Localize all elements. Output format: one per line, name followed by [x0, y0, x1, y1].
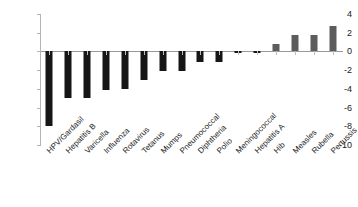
x-tick-mark — [238, 51, 239, 55]
bar[interactable] — [65, 51, 72, 98]
x-tick-mark — [182, 51, 183, 55]
bar[interactable] — [291, 35, 298, 52]
x-tick-mark — [257, 51, 258, 55]
x-tick-mark — [49, 51, 50, 55]
bar[interactable] — [140, 51, 147, 80]
x-tick-mark — [87, 51, 88, 55]
bar-slot[interactable] — [40, 14, 59, 145]
bar[interactable] — [103, 51, 110, 89]
bar[interactable] — [310, 35, 317, 52]
x-tick-mark — [163, 51, 164, 55]
x-tick-mark — [333, 51, 334, 55]
x-tick-mark — [68, 51, 69, 55]
bar[interactable] — [121, 51, 128, 88]
x-tick-mark — [276, 51, 277, 55]
bar[interactable] — [84, 51, 91, 98]
bar-slot[interactable] — [153, 14, 172, 145]
bar-slot[interactable] — [285, 14, 304, 145]
bar[interactable] — [329, 26, 336, 51]
x-tick-mark — [106, 51, 107, 55]
bar-slot[interactable] — [97, 14, 116, 145]
bar-slot[interactable] — [172, 14, 191, 145]
x-tick-mark — [144, 51, 145, 55]
plot-area — [40, 14, 342, 145]
bar-slot[interactable] — [323, 14, 342, 145]
x-tick-mark — [295, 51, 296, 55]
bar-slot[interactable] — [304, 14, 323, 145]
bar[interactable] — [46, 51, 53, 126]
bar[interactable] — [272, 44, 279, 51]
x-tick-mark — [125, 51, 126, 55]
x-tick-mark — [219, 51, 220, 55]
bar-slot[interactable] — [229, 14, 248, 145]
x-tick-mark — [314, 51, 315, 55]
y-tick-mark — [37, 145, 41, 146]
x-tick-mark — [200, 51, 201, 55]
